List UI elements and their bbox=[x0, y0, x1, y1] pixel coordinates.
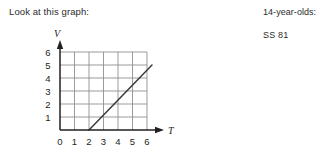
y-tick-label: 6 bbox=[45, 47, 50, 58]
x-tick-label: 3 bbox=[101, 136, 106, 147]
worksheet-page: Look at this graph: 14-year-olds: SS 81 bbox=[0, 0, 331, 162]
y-tick-label: 3 bbox=[45, 86, 50, 97]
y-tick-labels: 6 5 4 3 2 1 bbox=[45, 47, 50, 123]
x-tick-label: 4 bbox=[115, 136, 120, 147]
age-group-label: 14-year-olds: bbox=[263, 7, 316, 17]
prompt-text: Look at this graph: bbox=[9, 6, 89, 17]
graph-figure: V T 6 5 4 3 2 1 0 1 2 3 4 5 6 bbox=[40, 28, 180, 150]
x-tick-label: 5 bbox=[130, 136, 135, 147]
x-axis-label: T bbox=[168, 125, 175, 136]
grid-lines bbox=[60, 52, 147, 130]
x-tick-label: 6 bbox=[144, 136, 149, 147]
x-axis-arrowhead bbox=[155, 127, 164, 133]
y-axis-arrowhead bbox=[57, 40, 63, 49]
item-code-label: SS 81 bbox=[263, 30, 289, 40]
y-tick-label: 5 bbox=[45, 60, 50, 71]
x-tick-labels: 0 1 2 3 4 5 6 bbox=[57, 136, 149, 147]
x-tick-label: 2 bbox=[86, 136, 91, 147]
y-tick-label: 1 bbox=[45, 112, 50, 123]
y-tick-label: 4 bbox=[45, 73, 50, 84]
y-tick-label: 2 bbox=[45, 99, 50, 110]
data-line bbox=[89, 65, 152, 130]
graph-svg: V T 6 5 4 3 2 1 0 1 2 3 4 5 6 bbox=[40, 28, 180, 150]
x-tick-label: 1 bbox=[72, 136, 77, 147]
x-tick-label: 0 bbox=[57, 136, 62, 147]
y-axis-label: V bbox=[54, 28, 62, 39]
